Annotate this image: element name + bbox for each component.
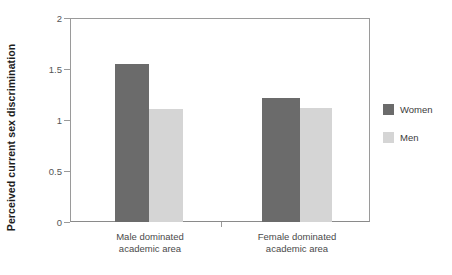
- legend-item-men: Men: [383, 131, 452, 143]
- legend-swatch-women-icon: [383, 104, 394, 115]
- legend-item-women: Women: [383, 103, 452, 115]
- legend-label-women: Women: [400, 104, 433, 115]
- y-tick-label-0: 0: [28, 218, 62, 228]
- y-tick-label-1-5: 1.5: [28, 65, 62, 75]
- bar-women-female-dominated: [262, 98, 300, 222]
- x-category-label-male-dominated: Male dominated academic area: [85, 231, 215, 255]
- bars-layer: [71, 19, 369, 222]
- bar-chart-figure: Perceived current sex discrimination 2 1…: [0, 0, 452, 275]
- bar-men-female-dominated: [300, 108, 332, 222]
- y-tick-label-2: 2: [28, 14, 62, 24]
- y-tick-label-0-5: 0.5: [28, 167, 62, 177]
- x-category-line-2: academic area: [85, 243, 215, 255]
- bar-men-male-dominated: [149, 109, 183, 222]
- legend-swatch-men-icon: [383, 132, 394, 143]
- x-axis-group-tick: [221, 222, 222, 227]
- x-category-label-female-dominated: Female dominated academic area: [232, 231, 362, 255]
- y-axis-title: Perceived current sex discrimination: [0, 0, 22, 275]
- y-tick-mark-0: [64, 222, 70, 223]
- y-tick-label-1: 1: [28, 116, 62, 126]
- legend-label-men: Men: [400, 132, 418, 143]
- chart-legend: Women Men: [383, 103, 452, 159]
- bar-women-male-dominated: [115, 64, 149, 222]
- x-category-line-1: Female dominated: [232, 231, 362, 243]
- x-category-line-1: Male dominated: [85, 231, 215, 243]
- x-category-line-2: academic area: [232, 243, 362, 255]
